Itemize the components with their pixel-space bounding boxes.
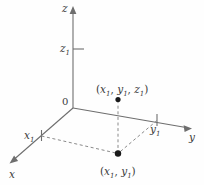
origin-label: 0 (62, 96, 68, 107)
y-axis-label: y (188, 131, 196, 143)
z1-label: z1 (59, 42, 70, 57)
point-3d-marker (115, 97, 120, 102)
figure-canvas: z z1 0 x y x1 y1 (x1, y1, z1) (x1, y1) (0, 0, 204, 185)
z-axis-arrowhead (70, 6, 77, 14)
point-3d-label: (x1, y1, z1) (96, 83, 148, 98)
x1-label: x1 (24, 129, 34, 144)
y-axis-line (73, 108, 186, 128)
y1-label: y1 (149, 123, 160, 138)
z-axis-label: z (61, 2, 68, 14)
x-axis-label: x (9, 168, 15, 180)
point-2d-label: (x1, y1) (100, 165, 136, 180)
point-2d-marker (115, 150, 121, 156)
projection-line-x1-to-point2d (42, 136, 119, 154)
coordinate-system-svg: z z1 0 x y x1 y1 (x1, y1, z1) (x1, y1) (0, 0, 204, 185)
